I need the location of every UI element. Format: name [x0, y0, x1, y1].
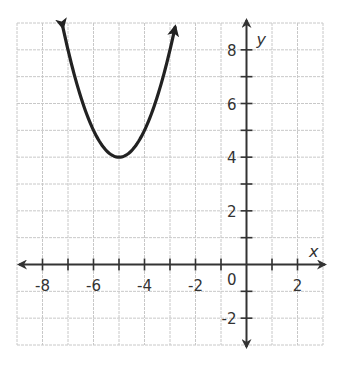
- tick-labels: -8-6-4-22-22468: [35, 42, 302, 328]
- x-tick-label: -8: [35, 277, 50, 295]
- x-tick-label: -6: [86, 277, 101, 295]
- y-axis-label: y: [256, 30, 267, 49]
- x-tick-label: -2: [188, 277, 203, 295]
- x-axis-label: x: [308, 242, 319, 261]
- y-tick-label: 6: [227, 96, 237, 114]
- grid-lines: [17, 23, 323, 345]
- origin-label: 0: [227, 271, 237, 289]
- y-tick-label: 4: [227, 149, 237, 167]
- y-tick-label: -2: [222, 310, 237, 328]
- y-tick-label: 8: [227, 42, 237, 60]
- x-tick-label: -4: [137, 277, 152, 295]
- y-tick-label: 2: [227, 203, 237, 221]
- parabola-graph: -8-6-4-22-22468 x y 0: [0, 0, 340, 365]
- x-tick-label: 2: [293, 277, 303, 295]
